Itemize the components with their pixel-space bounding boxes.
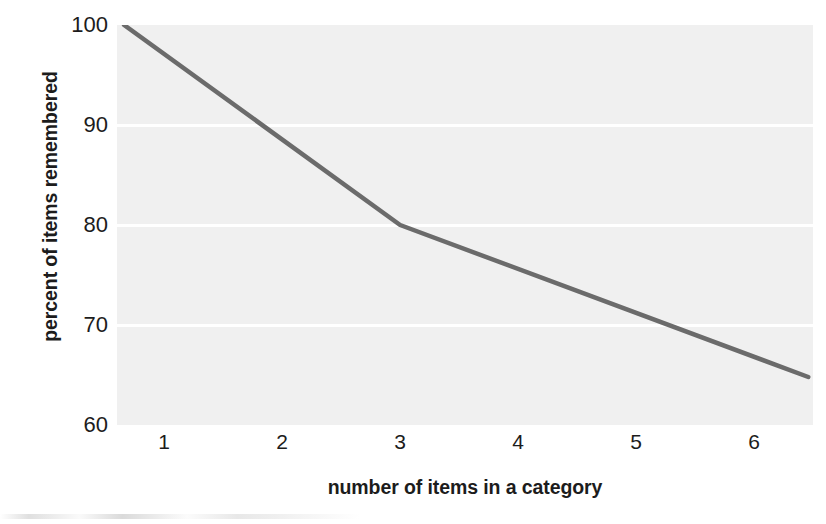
y-tick-label: 90	[48, 114, 108, 136]
y-axis-tick-labels: 60708090100	[46, 0, 108, 524]
plot-area	[117, 25, 813, 425]
x-tick-label: 3	[380, 431, 420, 452]
x-tick-label: 4	[498, 431, 538, 452]
x-tick-label: 5	[616, 431, 656, 452]
x-axis-tick-labels: 123456	[117, 431, 813, 461]
series-polyline	[124, 25, 808, 377]
x-tick-label: 2	[262, 431, 302, 452]
y-tick-label: 80	[48, 214, 108, 236]
scan-artifact	[0, 514, 360, 519]
line-series	[117, 25, 813, 425]
y-tick-label: 70	[48, 314, 108, 336]
x-tick-label: 6	[734, 431, 774, 452]
x-tick-label: 1	[144, 431, 184, 452]
y-tick-label: 100	[48, 14, 108, 36]
x-axis-title: number of items in a category	[117, 476, 813, 499]
chart-figure: percent of items remembered 60708090100 …	[0, 0, 826, 524]
y-tick-label: 60	[48, 414, 108, 436]
